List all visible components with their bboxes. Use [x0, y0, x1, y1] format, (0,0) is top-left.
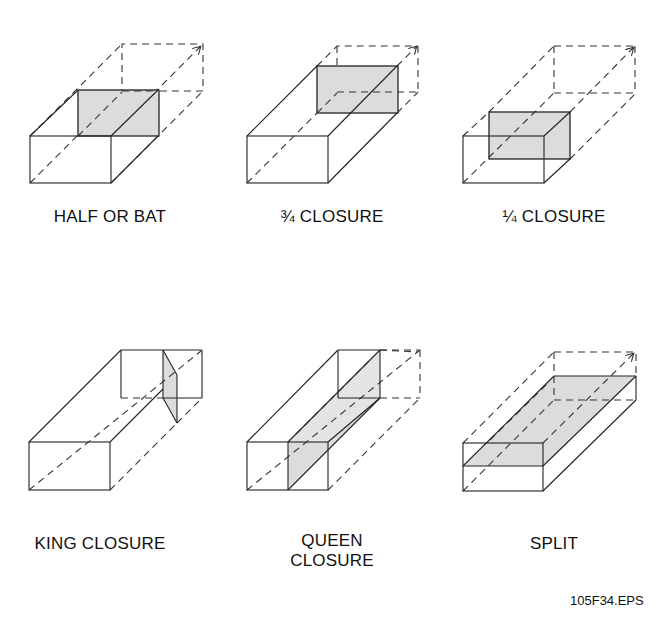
split-figure [463, 352, 636, 491]
three-quarter-closure-figure [247, 46, 418, 183]
label-queen-line2: CLOSURE [237, 551, 427, 571]
label-half-or-bat: HALF OR BAT [15, 207, 205, 227]
label-split: SPLIT [459, 534, 649, 554]
half-or-bat-figure [30, 44, 203, 183]
label-queen-closure: QUEEN CLOSURE [237, 531, 427, 571]
label-queen-line1: QUEEN [237, 531, 427, 551]
quarter-closure-figure [463, 46, 635, 183]
label-king-closure: KING CLOSURE [0, 534, 200, 554]
file-code: 105F34.EPS [570, 593, 644, 608]
label-quarter-closure: ¼ CLOSURE [459, 207, 649, 227]
queen-closure-figure [247, 350, 420, 490]
king-closure-figure [29, 350, 202, 490]
label-three-quarter-closure: ¾ CLOSURE [237, 207, 427, 227]
